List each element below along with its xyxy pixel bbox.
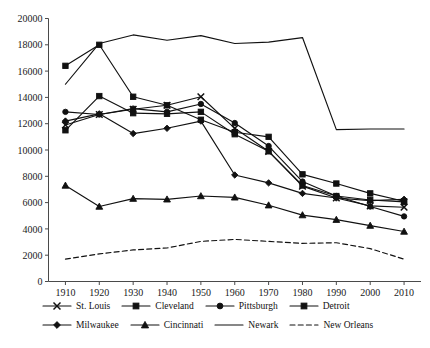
legend-swatch-circle — [205, 300, 235, 312]
figure-caption — [6, 338, 426, 347]
series-line — [65, 97, 404, 207]
legend-swatch-x — [42, 300, 72, 312]
y-axis-tick-label: 2000 — [23, 250, 43, 261]
series-pittsburgh — [63, 101, 407, 219]
legend-label: St. Louis — [76, 300, 110, 312]
y-axis-tick-label: 16000 — [18, 66, 43, 77]
legend-label: Detroit — [323, 300, 350, 312]
data-point — [232, 120, 237, 125]
data-point — [164, 103, 169, 108]
data-point — [368, 191, 373, 196]
y-axis-tick-label: 8000 — [23, 171, 43, 182]
legend-swatch-square — [289, 300, 319, 312]
series-newark — [65, 35, 404, 130]
series-st-louis — [62, 93, 407, 210]
data-point — [266, 134, 271, 139]
data-point — [63, 109, 68, 114]
series-line — [65, 114, 404, 201]
legend-swatch-square — [121, 300, 151, 312]
legend-item-milwaukee[interactable]: Milwaukee — [42, 319, 119, 331]
y-axis-tick-label: 20000 — [18, 13, 43, 24]
legend-label: Cleveland — [155, 300, 194, 312]
data-point — [198, 101, 203, 106]
legend-label: Pittsburgh — [239, 300, 278, 312]
legend-label: Cincinnati — [164, 319, 204, 331]
series-line — [65, 186, 404, 232]
series-cleveland — [63, 93, 407, 204]
legend-swatch-triangle — [130, 319, 160, 331]
data-point — [63, 63, 68, 68]
data-point — [368, 204, 373, 209]
data-point — [130, 94, 135, 99]
series-cincinnati — [62, 182, 407, 234]
line-chart: 0200040006000800010000120001400016000180… — [0, 0, 430, 348]
series-line — [65, 239, 404, 259]
legend-row: MilwaukeeCincinnatiNewarkNew Orleans — [0, 315, 430, 334]
legend-label: New Orleans — [323, 319, 373, 331]
data-point — [232, 172, 238, 178]
data-point — [232, 130, 237, 135]
y-axis-tick-label: 14000 — [18, 92, 43, 103]
legend-swatch-line — [289, 319, 319, 331]
data-point — [300, 179, 305, 184]
data-point — [97, 93, 102, 98]
data-point — [401, 214, 406, 219]
data-point — [164, 125, 170, 131]
data-point — [63, 128, 68, 133]
y-axis-tick-label: 10000 — [18, 145, 43, 156]
chart-legend: St. LouisClevelandPittsburghDetroitMilwa… — [0, 296, 430, 336]
data-point — [299, 190, 305, 196]
series-new-orleans — [65, 239, 404, 259]
data-point — [164, 109, 169, 114]
legend-swatch-diamond — [42, 319, 72, 331]
legend-item-cincinnati[interactable]: Cincinnati — [130, 319, 204, 331]
data-point — [265, 180, 271, 186]
y-axis-tick-label: 18000 — [18, 39, 43, 50]
legend-row: St. LouisClevelandPittsburghDetroit — [0, 296, 430, 315]
data-point — [130, 130, 136, 136]
legend-label: Newark — [248, 319, 278, 331]
y-axis: 0200040006000800010000120001400016000180… — [18, 13, 49, 287]
data-point — [198, 109, 203, 114]
data-point — [266, 149, 271, 154]
legend-item-pittsburgh[interactable]: Pittsburgh — [205, 300, 278, 312]
y-axis-tick-label: 6000 — [23, 197, 43, 208]
data-point — [300, 172, 305, 177]
y-axis-tick-label: 0 — [38, 276, 43, 287]
y-axis-tick-label: 4000 — [23, 224, 43, 235]
legend-item-cleveland[interactable]: Cleveland — [121, 300, 194, 312]
legend-label: Milwaukee — [76, 319, 119, 331]
data-point — [334, 181, 339, 186]
legend-item-detroit[interactable]: Detroit — [289, 300, 350, 312]
legend-item-new-orleans[interactable]: New Orleans — [289, 319, 373, 331]
data-point — [266, 143, 271, 148]
data-point — [130, 106, 135, 111]
legend-item-newark[interactable]: Newark — [214, 319, 278, 331]
series-line — [65, 35, 404, 130]
data-point — [62, 182, 69, 188]
series-layer — [62, 35, 407, 259]
legend-swatch-line — [214, 319, 244, 331]
legend-item-st-louis[interactable]: St. Louis — [42, 300, 110, 312]
y-axis-tick-label: 12000 — [18, 118, 43, 129]
